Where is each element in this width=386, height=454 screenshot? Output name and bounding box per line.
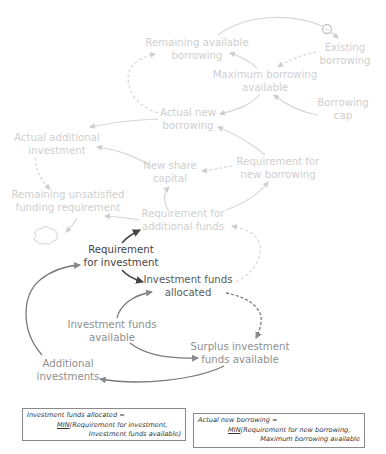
node-label-line1: Additional [37, 357, 100, 370]
node-label-line2: borrowing [320, 54, 371, 67]
node-maximum-borrowing-available: Maximum borrowing available [213, 68, 317, 94]
node-label-line1: New share [143, 159, 197, 172]
node-label-line1: Remaining available [145, 36, 248, 49]
node-label-line2: investment [14, 144, 100, 157]
node-label-line1: Existing [320, 41, 371, 54]
link-unsatisfied-to-cloud [66, 218, 77, 232]
node-new-share-capital: New share capital [143, 159, 197, 185]
link-cap-to-maxborrow [274, 95, 318, 115]
valve-icon [323, 25, 332, 34]
node-label-line2: allocated [143, 286, 232, 299]
node-label-line2: borrowing [145, 49, 248, 62]
node-investment-funds-allocated: Investment funds allocated [143, 273, 232, 299]
equation-lhs: Investment funds allocated = [27, 411, 181, 421]
link-remaining-to-existing [218, 17, 322, 35]
node-label-line1: Investment funds [67, 318, 156, 331]
node-label-line1: Borrowing [317, 96, 369, 109]
node-existing-borrowing: Existing borrowing [320, 41, 371, 67]
link-available-to-surplus [130, 343, 198, 358]
equation-min-line: MIN(Requirement for new borrowing, [198, 426, 360, 436]
node-requirement-for-additional-funds: Requirement for additional funds [142, 207, 225, 233]
node-label-line1: Surplus investment [191, 340, 290, 353]
link-reqinvest-to-reqfunds [122, 230, 140, 243]
link-actualinvest-to-unsatisfied [35, 158, 50, 189]
node-label-line2: funds available [191, 353, 290, 366]
node-additional-investments: Additional investments [37, 357, 100, 383]
equation-arg1: (Requirement for new borrowing, [241, 426, 351, 434]
node-label-line1: Requirement for [142, 207, 225, 220]
node-borrowing-cap: Borrowing cap [317, 96, 369, 122]
node-label-line1: Remaining unsatisfied [11, 188, 124, 201]
equation-arg2: Investment funds available) [27, 430, 181, 440]
node-requirement-for-new-borrowing: Requirement for new borrowing [237, 155, 320, 181]
equation-arg1: (Requirement for investment, [70, 421, 168, 429]
node-label-line1: Requirement for [237, 155, 320, 168]
node-label-line1: Actual new [160, 106, 216, 119]
link-actualnew-to-remaining [128, 54, 158, 113]
node-investment-funds-available: Investment funds available [67, 318, 156, 344]
node-remaining-unsatisfied-funding-requirement: Remaining unsatisfied funding requiremen… [11, 188, 124, 214]
link-surplus-to-additional [100, 366, 224, 382]
node-actual-new-borrowing: Actual new borrowing [160, 106, 216, 132]
link-actualnew-to-actualinvest [90, 119, 158, 127]
node-remaining-available-borrowing: Remaining available borrowing [145, 36, 248, 62]
link-maxborrow-to-actualnew [220, 94, 260, 114]
link-existing-to-maxborrow [278, 52, 316, 67]
node-label-line1: Actual additional [14, 131, 100, 144]
equation-fn: MIN [57, 421, 70, 429]
equation-arg2: Maximum borrowing available [198, 435, 360, 445]
node-label-line2: funding requirement [11, 201, 124, 214]
equation-min-line: MIN(Requirement for investment, [27, 421, 181, 431]
equation-fn: MIN [228, 426, 241, 434]
node-label-line2: for investment [84, 256, 159, 269]
link-reqnew-to-newshare [202, 166, 232, 171]
node-label-line2: available [213, 81, 317, 94]
node-label-line2: additional funds [142, 220, 225, 233]
node-surplus-investment-funds-available: Surplus investment funds available [191, 340, 290, 366]
node-label-line2: cap [317, 109, 369, 122]
node-label-line1: Maximum borrowing [213, 68, 317, 81]
node-label-line2: borrowing [160, 119, 216, 132]
node-label-line1: Investment funds [143, 273, 232, 286]
cloud-icon [34, 227, 57, 244]
link-reqinvest-to-allocated [122, 270, 143, 282]
node-label-line1: Requirement [84, 243, 159, 256]
node-requirement-for-investment: Requirement for investment [84, 243, 159, 269]
link-reqfunds-to-reqnew [226, 182, 268, 210]
link-reqnew-to-actualnew [218, 127, 265, 155]
node-actual-additional-investment: Actual additional investment [14, 131, 100, 157]
link-allocated-to-reqfunds [232, 226, 260, 282]
link-newshare-to-actualinvest [97, 147, 150, 165]
node-label-line2: investments [37, 370, 100, 383]
node-label-line2: new borrowing [237, 168, 320, 181]
node-label-line2: capital [143, 172, 197, 185]
node-label-line2: available [67, 331, 156, 344]
equation-lhs: Actual new borrowing = [198, 416, 360, 426]
equation-box-investment-funds-allocated: Investment funds allocated = MIN(Require… [22, 408, 186, 441]
equation-box-actual-new-borrowing: Actual new borrowing = MIN(Requirement f… [193, 413, 365, 448]
link-allocated-to-surplus [226, 293, 261, 338]
link-reqfunds-to-unsatisfied [105, 216, 140, 220]
